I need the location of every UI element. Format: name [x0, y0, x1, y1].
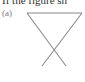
diagonal-line-right	[42, 13, 82, 66]
crossed-lines-figure	[0, 0, 85, 82]
diagonal-line-left	[27, 13, 66, 66]
